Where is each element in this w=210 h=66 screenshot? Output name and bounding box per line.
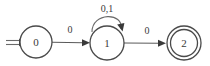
transition-0-to-1-label: 0 xyxy=(68,24,73,35)
state-0-label: 0 xyxy=(33,36,39,48)
transition-0-to-1 xyxy=(52,39,90,46)
state-0[interactable]: 0 xyxy=(20,26,52,58)
automaton-diagram: 0 1 2 0 0,1 0 xyxy=(0,0,210,66)
state-1[interactable]: 1 xyxy=(90,26,124,60)
transition-1-to-2 xyxy=(124,40,166,47)
state-1-label: 1 xyxy=(104,37,110,49)
state-2-accepting[interactable]: 2 xyxy=(167,26,201,60)
transition-1-to-2-label: 0 xyxy=(145,25,150,36)
transition-1-self-loop-label: 0,1 xyxy=(101,3,114,14)
state-2-label: 2 xyxy=(181,37,187,49)
